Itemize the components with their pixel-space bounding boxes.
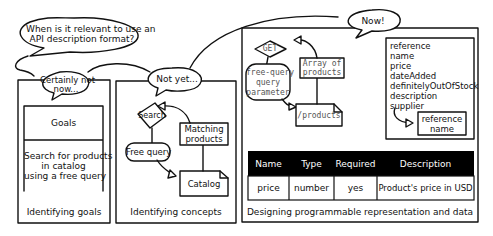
goal-line-1: Search for products [24,151,103,161]
property-item: name [390,51,478,61]
table-header-required: Required [334,159,377,169]
table-cell: number [289,183,334,193]
question-line-1: When is it relevant to use an [26,24,138,34]
supplier-line-2: name [418,124,466,134]
table-cell: price [248,183,289,193]
table-cell: Product's price in USD [377,183,474,193]
array-line-2: products [300,68,344,78]
now-label: Now! [348,16,398,26]
param-line-2: query [246,78,290,88]
param-line-3: parameter [246,88,290,98]
supplier-line-1: reference [418,114,466,124]
property-item: dateAdded [390,71,478,81]
property-item: price [390,61,478,71]
table-header-description: Description [377,159,474,169]
goals-title: Goals [24,118,103,128]
free-query-label: Free query [126,147,170,157]
property-item: reference [390,41,478,51]
property-item: supplier [390,101,478,111]
get-label: GET [254,44,286,54]
table-cell: yes [334,183,377,193]
question-line-2: API description format? [26,34,138,44]
properties-list: reference name price dateAdded definitel… [390,41,478,111]
certainly-not-line-2: now... [40,84,92,94]
panel-design-caption: Designing programmable representation an… [242,207,478,217]
goal-line-2: in catalog [24,161,103,171]
not-yet-label: Not yet... [152,74,202,84]
matching-line-2: products [180,134,228,144]
catalog-label: Catalog [180,179,228,189]
search-label: Search [136,111,168,121]
goal-line-3: using a free query [24,171,103,181]
panel-concepts-caption: Identifying concepts [116,207,236,217]
matching-line-1: Matching [180,124,228,134]
path-label: /products [296,111,342,121]
param-line-1: free-query [246,68,290,78]
property-item: description [390,91,478,101]
table-header-name: Name [248,159,289,169]
table-header-type: Type [289,159,334,169]
property-item: definitelyOutOfStock [390,81,478,91]
panel-goals-caption: Identifying goals [18,207,110,217]
